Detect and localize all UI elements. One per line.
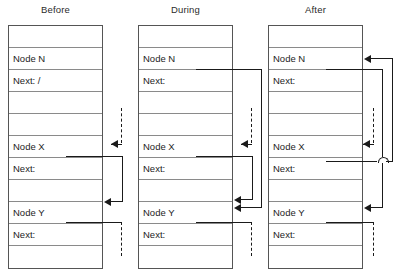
table-row (269, 114, 362, 136)
table-row (9, 26, 102, 48)
table-row (139, 26, 232, 48)
pointer-node-x-next-h (326, 161, 378, 162)
arrowhead-icon (364, 204, 371, 212)
pointer-incoming-dashed-segment (241, 144, 252, 145)
table-row: Next: (139, 70, 232, 92)
cell-label: Node Y (273, 206, 305, 219)
table-row (269, 92, 362, 114)
table-row: Next: (9, 224, 102, 246)
pointer-incoming-dashed-segment (111, 144, 122, 145)
memory-table-after: Node N Next: Node X Next: Node Y Next: (268, 25, 363, 269)
pointer-node-n-next-v (382, 69, 383, 208)
pointer-node-y-next-h (196, 222, 251, 223)
table-row: Next: (269, 224, 362, 246)
table-row (9, 246, 102, 268)
cell-label: Node Y (13, 206, 45, 219)
linked-list-pointer-diagram: Before Node N Next: / Node X Next: Node … (0, 0, 397, 269)
pointer-node-x-next-v (252, 156, 253, 200)
pointer-incoming-dashed-to-node-x (373, 108, 374, 143)
cell-label: Node N (273, 52, 305, 65)
pointer-node-x-next-v (122, 156, 123, 202)
pointer-node-x-next-h2 (371, 58, 393, 59)
panel-after: After Node N Next: Node X Next: Node Y N… (268, 0, 397, 269)
table-row (139, 246, 232, 268)
table-row (9, 114, 102, 136)
table-row: Node N (269, 48, 362, 70)
pointer-node-x-next-h2 (241, 199, 253, 200)
pointer-incoming-dashed-to-node-x (251, 108, 252, 143)
pointer-node-y-next-dashed (251, 222, 252, 256)
pointer-node-y-next-h (66, 222, 121, 223)
pointer-node-x-next-v (392, 58, 393, 162)
cell-label: Next: (273, 162, 295, 175)
table-row: Next: (9, 158, 102, 180)
cell-label: Next: (13, 228, 35, 241)
cell-label: Node N (13, 52, 45, 65)
table-row (9, 180, 102, 202)
pointer-node-n-next-h (326, 69, 383, 70)
table-row: Node N (139, 48, 232, 70)
table-row: Node X (269, 136, 362, 158)
pointer-node-n-next-v (261, 69, 262, 208)
table-row: Node Y (269, 202, 362, 224)
pointer-node-n-next-h2 (371, 207, 383, 208)
table-row: Node Y (9, 202, 102, 224)
arrowhead-icon (234, 196, 241, 204)
memory-table-before: Node N Next: / Node X Next: Node Y Next: (8, 25, 103, 269)
arrowhead-icon (104, 198, 111, 206)
table-row: Node N (9, 48, 102, 70)
cell-label: Node N (143, 52, 175, 65)
table-row: Node X (139, 136, 232, 158)
table-row (139, 180, 232, 202)
panel-title-after: After (268, 4, 363, 16)
pointer-node-y-next-dashed (373, 222, 374, 256)
cell-label: Next: (273, 74, 295, 87)
table-row (139, 114, 232, 136)
pointer-incoming-dashed-segment (363, 144, 374, 145)
arrowhead-icon (364, 55, 371, 63)
cell-label: Node X (273, 140, 305, 153)
table-row: Node Y (139, 202, 232, 224)
table-row (269, 180, 362, 202)
pointer-node-n-next-h (196, 69, 262, 70)
pointer-node-x-next-h (66, 156, 123, 157)
panel-before: Before Node N Next: / Node X Next: Node … (8, 0, 136, 269)
cell-label: Next: (143, 74, 165, 87)
cell-label: Next: (143, 162, 165, 175)
pointer-node-y-next-h (326, 222, 374, 223)
pointer-node-x-next-h (196, 156, 253, 157)
cell-label: Node X (13, 140, 45, 153)
table-row: Next: (269, 70, 362, 92)
cell-label: Node X (143, 140, 175, 153)
pointer-incoming-dashed-to-node-x (121, 108, 122, 143)
memory-table-during: Node N Next: Node X Next: Node Y Next: (138, 25, 233, 269)
pointer-node-x-next-h2 (111, 201, 123, 202)
cell-label: Next: (13, 162, 35, 175)
pointer-node-n-next-h2 (241, 207, 262, 208)
table-row: Next: (139, 224, 232, 246)
cell-label: Next: / (13, 74, 40, 87)
panel-during: During Node N Next: Node X Next: Node Y … (138, 0, 266, 269)
table-row: Next: / (9, 70, 102, 92)
panel-title-during: During (138, 4, 233, 16)
cell-label: Next: (143, 228, 165, 241)
table-row: Node X (9, 136, 102, 158)
panel-title-before: Before (8, 4, 103, 16)
cell-label: Next: (273, 228, 295, 241)
cell-label: Node Y (143, 206, 175, 219)
table-row (139, 92, 232, 114)
table-row (9, 92, 102, 114)
pointer-node-y-next-dashed (121, 222, 122, 256)
table-row (269, 26, 362, 48)
table-row: Next: (139, 158, 232, 180)
arrowhead-icon (234, 204, 241, 212)
table-row (269, 246, 362, 268)
